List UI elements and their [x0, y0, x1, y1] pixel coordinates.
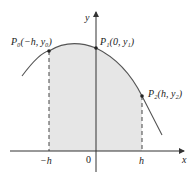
- point-p2: [140, 94, 144, 98]
- point-label-p1: P₁(0, y₁): [100, 37, 134, 47]
- parabola-diagram: y x 0 −h h P₀(−h, y₀) P₁(0, y₁) P₂(h, y₂…: [0, 0, 194, 176]
- x-axis-label: x: [182, 155, 186, 165]
- point-p1: [94, 46, 98, 50]
- tick-label-h: h: [139, 156, 144, 166]
- origin-label: 0: [86, 155, 91, 165]
- point-label-p0: P₀(−h, y₀): [11, 37, 52, 47]
- point-label-p2: P₂(h, y₂): [148, 89, 182, 99]
- tick-label-neg-h: −h: [40, 156, 52, 166]
- y-axis-label: y: [85, 13, 89, 23]
- point-p0: [47, 49, 51, 53]
